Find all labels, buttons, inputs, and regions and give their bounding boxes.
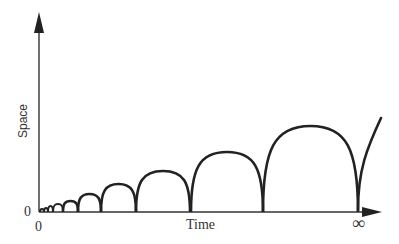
y-axis-arrowhead-icon: [34, 12, 44, 33]
diagram-canvas: Space Time 0 0 ∞: [0, 0, 399, 244]
x-axis-label: Time: [186, 217, 215, 233]
infinity-label: ∞: [352, 213, 365, 234]
arch-curves: [40, 126, 358, 212]
rising-tail-curve: [358, 118, 381, 210]
arch-curve: [63, 201, 78, 212]
arch-curve: [101, 184, 136, 212]
y-axis-label: Space: [16, 108, 30, 138]
arch-curve: [78, 194, 101, 212]
arch-curve: [136, 171, 190, 212]
y-origin-label: 0: [24, 204, 31, 220]
x-origin-label: 0: [35, 219, 42, 235]
arch-curve: [53, 204, 63, 212]
bouncing-arches-plot: [0, 0, 399, 244]
arch-curve: [191, 152, 263, 212]
arch-curve: [263, 126, 358, 212]
x-axis-arrowhead-icon: [362, 207, 382, 217]
